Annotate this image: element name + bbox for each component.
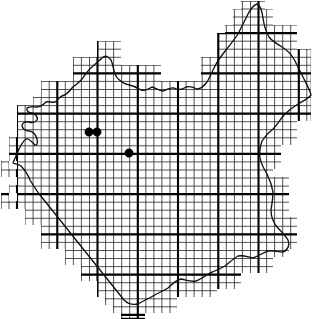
distribution-map-figure bbox=[0, 0, 312, 319]
map-background bbox=[0, 0, 312, 319]
distribution-map-svg bbox=[0, 0, 312, 319]
occurrence-dot-3 bbox=[125, 149, 133, 157]
occurrence-dot-2 bbox=[93, 128, 101, 136]
occurrence-dot-1 bbox=[85, 128, 93, 136]
